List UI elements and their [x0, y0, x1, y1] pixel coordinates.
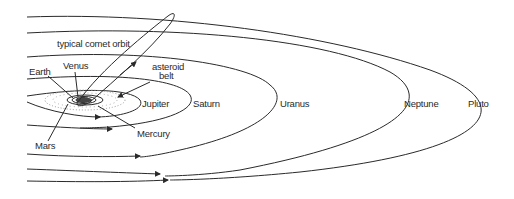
label-uranus: Uranus	[280, 99, 309, 109]
label-mercury: Mercury	[137, 129, 170, 139]
label-mars: Mars	[35, 141, 55, 151]
label-venus: Venus	[63, 61, 88, 71]
label-comet: typical comet orbit	[57, 39, 130, 49]
label-earth: Earth	[29, 67, 51, 77]
label-neptune: Neptune	[404, 99, 439, 109]
label-jupiter: Jupiter	[142, 99, 169, 109]
label-asteroid-2: belt	[159, 71, 174, 81]
comet-orbit	[77, 14, 174, 106]
label-saturn: Saturn	[193, 99, 220, 109]
label-pluto: Pluto	[468, 99, 489, 109]
